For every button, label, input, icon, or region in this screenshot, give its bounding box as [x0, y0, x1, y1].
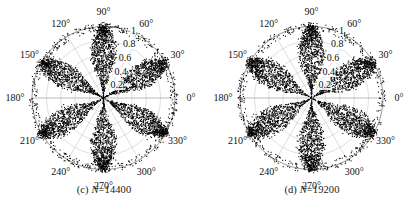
theta-tick-label-120: 120°: [259, 19, 278, 29]
r-tick-label-0p6: 0.6: [326, 53, 340, 63]
theta-tick-label-240: 240°: [51, 167, 70, 177]
theta-tick-label-30: 30°: [379, 50, 393, 60]
r-tick-label-0p2: 0.2: [110, 80, 124, 90]
theta-tick-label-0: 0°: [395, 93, 404, 103]
r-tick-label-0p2: 0.2: [318, 80, 332, 90]
theta-tick-label-240: 240°: [259, 167, 278, 177]
caption-value-d: =19200: [307, 184, 340, 195]
caption-value-c: =14400: [99, 184, 132, 195]
theta-tick-label-150: 150°: [20, 50, 39, 60]
panel-c: 0°30°60°90°120°150°180°210°240°270°300°3…: [0, 0, 208, 211]
theta-tick-label-120: 120°: [51, 19, 70, 29]
theta-tick-label-60: 60°: [139, 19, 153, 29]
r-tick-label-0p8: 0.8: [330, 39, 344, 49]
theta-tick-label-60: 60°: [347, 19, 361, 29]
theta-tick-label-210: 210°: [228, 136, 247, 146]
theta-tick-label-90: 90°: [97, 7, 111, 17]
theta-tick-label-30: 30°: [171, 50, 185, 60]
polar-axes-c: [0, 0, 208, 190]
polar-scatter-figure: 0°30°60°90°120°150°180°210°240°270°300°3…: [0, 0, 416, 211]
panel-d: 0°30°60°90°120°150°180°210°240°270°300°3…: [208, 0, 416, 211]
r-tick-label-1: 1: [338, 26, 344, 36]
theta-tick-label-180: 180°: [6, 93, 25, 103]
theta-tick-label-330: 330°: [168, 136, 187, 146]
r-tick-label-0p8: 0.8: [122, 39, 136, 49]
theta-tick-label-0: 0°: [187, 93, 196, 103]
panel-caption-d: (d) N=19200: [208, 184, 416, 195]
caption-prefix-d: (d): [284, 184, 297, 195]
r-tick-label-0p4: 0.4: [322, 67, 336, 77]
panel-caption-c: (c) N=14400: [0, 184, 208, 195]
r-tick-label-0p4: 0.4: [114, 67, 128, 77]
caption-variable-d: N: [300, 184, 307, 195]
theta-tick-label-90: 90°: [305, 7, 319, 17]
r-tick-label-0p6: 0.6: [118, 53, 132, 63]
theta-tick-label-210: 210°: [20, 136, 39, 146]
polar-axes-d: [208, 0, 416, 190]
polar-plot-d: 0°30°60°90°120°150°180°210°240°270°300°3…: [208, 0, 416, 190]
r-tick-label-1: 1: [130, 26, 136, 36]
theta-tick-label-300: 300°: [137, 167, 156, 177]
theta-tick-label-150: 150°: [228, 50, 247, 60]
theta-tick-label-300: 300°: [345, 167, 364, 177]
theta-tick-label-330: 330°: [376, 136, 395, 146]
caption-prefix-c: (c): [77, 184, 89, 195]
polar-plot-c: 0°30°60°90°120°150°180°210°240°270°300°3…: [0, 0, 208, 190]
theta-tick-label-180: 180°: [214, 93, 233, 103]
caption-variable-c: N: [91, 184, 98, 195]
